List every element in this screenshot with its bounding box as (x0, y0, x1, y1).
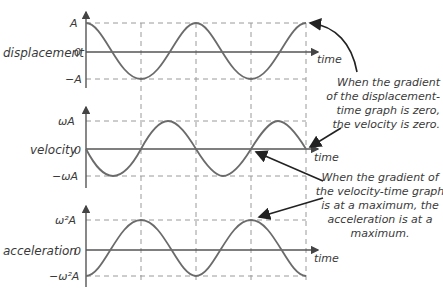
tick-zero: 0 (74, 144, 81, 157)
arrow-to-velocity-crossing (256, 152, 323, 181)
displacement-ylabel: displacement (3, 46, 85, 60)
acceleration-ylabel: acceleration (3, 244, 77, 258)
tick-zero: 0 (74, 245, 81, 258)
svg-text:the velocity-time graph: the velocity-time graph (316, 185, 443, 198)
shm-diagram: displacement A 0 −A time velocity ωA 0 −… (0, 0, 443, 291)
tick-top: ωA (58, 115, 75, 128)
svg-text:the velocity is zero.: the velocity is zero. (332, 118, 440, 131)
tick-top: ω²A (55, 214, 76, 227)
tick-bottom: −A (65, 73, 82, 86)
svg-text:acceleration is at a: acceleration is at a (328, 213, 433, 226)
tick-top: A (69, 17, 78, 30)
svg-text:When the gradient of: When the gradient of (321, 171, 440, 184)
annotation-1: When the gradient of the displacement- t… (326, 76, 440, 131)
svg-text:maximum.: maximum. (351, 227, 410, 240)
svg-text:When the gradient: When the gradient (337, 76, 441, 89)
svg-text:time graph is zero,: time graph is zero, (336, 104, 440, 117)
x-label-time: time (314, 151, 339, 164)
annotation-2: When the gradient of the velocity-time g… (316, 171, 443, 240)
velocity-panel: velocity ωA 0 −ωA time (30, 107, 339, 188)
displacement-panel: displacement A 0 −A time (3, 12, 342, 88)
tick-bottom: −ωA (52, 170, 78, 183)
tick-bottom: −ω²A (49, 270, 79, 283)
svg-text:is at a maximum, the: is at a maximum, the (321, 199, 439, 212)
x-label-time: time (317, 53, 342, 66)
svg-text:of the displacement-: of the displacement- (326, 90, 440, 103)
arrow-to-acceleration-peak (259, 198, 323, 217)
velocity-ylabel: velocity (30, 143, 78, 157)
acceleration-panel: acceleration ω²A 0 −ω²A time (3, 206, 339, 287)
x-label-time: time (314, 252, 339, 265)
tick-zero: 0 (74, 46, 81, 59)
